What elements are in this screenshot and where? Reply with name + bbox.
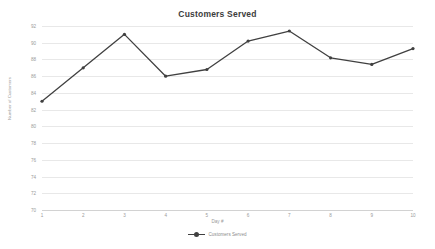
legend-item-label: Customers Served bbox=[208, 232, 246, 237]
chart-title: Customers Served bbox=[0, 9, 435, 19]
data-point-marker bbox=[329, 56, 332, 59]
x-axis-tick-label: 9 bbox=[370, 213, 373, 218]
data-point-marker bbox=[164, 75, 167, 78]
data-point-marker bbox=[247, 39, 250, 42]
y-axis-tick-label: 70 bbox=[31, 208, 36, 213]
y-axis-tick-label: 90 bbox=[31, 40, 36, 45]
data-point-marker bbox=[205, 68, 208, 71]
plot-area bbox=[42, 26, 413, 210]
chart-legend: Customers Served bbox=[0, 231, 435, 238]
series-path bbox=[42, 31, 413, 101]
x-axis-tick-label: 1 bbox=[41, 213, 44, 218]
x-axis-tick-label: 8 bbox=[329, 213, 332, 218]
x-axis-tick-label: 6 bbox=[247, 213, 250, 218]
x-axis-tick-label: 3 bbox=[123, 213, 126, 218]
y-axis-tick-label: 76 bbox=[31, 157, 36, 162]
data-point-marker bbox=[411, 47, 414, 50]
y-axis-tick-label: 82 bbox=[31, 107, 36, 112]
y-axis-tick-label: 80 bbox=[31, 124, 36, 129]
series-line-customers-served bbox=[42, 26, 413, 210]
x-axis-tick-label: 4 bbox=[164, 213, 167, 218]
data-point-marker bbox=[288, 29, 291, 32]
y-axis-tick-label: 74 bbox=[31, 174, 36, 179]
data-point-marker bbox=[40, 100, 43, 103]
x-axis-tick-label: 7 bbox=[288, 213, 291, 218]
data-point-marker bbox=[370, 63, 373, 66]
x-axis-tick-label: 10 bbox=[410, 213, 415, 218]
x-axis-title: Day # bbox=[0, 219, 435, 224]
y-axis-title: Number of Customers bbox=[7, 59, 12, 139]
x-axis-line bbox=[42, 210, 413, 211]
y-axis-tick-label: 72 bbox=[31, 191, 36, 196]
x-axis-tick-label: 5 bbox=[206, 213, 209, 218]
legend-swatch-icon bbox=[188, 231, 205, 238]
y-axis-tick-label: 92 bbox=[31, 24, 36, 29]
x-axis-tick-label: 2 bbox=[82, 213, 85, 218]
y-axis-tick-label: 88 bbox=[31, 57, 36, 62]
y-axis-tick-label: 84 bbox=[31, 90, 36, 95]
line-chart: Customers Served 92908886848280787674727… bbox=[0, 0, 435, 249]
y-axis-tick-label: 78 bbox=[31, 141, 36, 146]
data-point-marker bbox=[82, 66, 85, 69]
y-axis-tick-label: 86 bbox=[31, 74, 36, 79]
data-point-marker bbox=[123, 33, 126, 36]
